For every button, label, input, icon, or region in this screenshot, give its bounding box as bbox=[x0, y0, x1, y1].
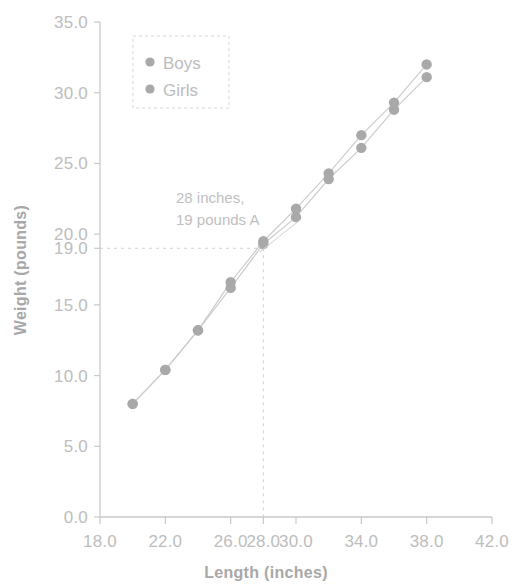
data-point-girls-4 bbox=[258, 236, 268, 246]
data-point-girls-1 bbox=[160, 365, 170, 375]
y-tick-label-30.0: 30.0 bbox=[54, 84, 88, 103]
series-markers bbox=[127, 59, 431, 409]
data-point-girls-9 bbox=[421, 59, 431, 69]
x-tick-label-18.0: 18.0 bbox=[83, 532, 117, 551]
x-axis-ticks bbox=[100, 517, 492, 524]
x-axis-title: Length (inches) bbox=[204, 564, 328, 581]
data-point-girls-7 bbox=[356, 130, 366, 140]
y-tick-label-25.0: 25.0 bbox=[54, 154, 88, 173]
x-tick-label-30.0: 30.0 bbox=[279, 532, 313, 551]
y-tick-label-35.0: 35.0 bbox=[54, 13, 88, 32]
chart-canvas: 0.05.010.015.019.020.025.030.035.0 18.02… bbox=[0, 0, 532, 586]
x-tick-label-42.0: 42.0 bbox=[475, 532, 509, 551]
series-lines bbox=[133, 64, 427, 403]
reference-lines bbox=[100, 248, 263, 517]
x-tick-label-26.0: 26.0 bbox=[214, 532, 248, 551]
data-point-girls-0 bbox=[127, 399, 137, 409]
data-point-boys-7 bbox=[356, 143, 366, 153]
x-tick-label-28.0: 28.0 bbox=[246, 532, 280, 551]
y-tick-label-20.0: 20.0 bbox=[54, 225, 88, 244]
chart-figure: 0.05.010.015.019.020.025.030.035.0 18.02… bbox=[0, 0, 532, 586]
legend-label-girls[interactable]: Girls bbox=[163, 81, 198, 100]
x-axis-tick-labels: 18.022.026.028.030.034.038.042.0 bbox=[83, 532, 509, 551]
data-point-girls-8 bbox=[389, 97, 399, 107]
y-tick-label-10.0: 10.0 bbox=[54, 367, 88, 386]
x-tick-label-34.0: 34.0 bbox=[344, 532, 378, 551]
y-tick-label-0.0: 0.0 bbox=[64, 508, 88, 527]
legend-label-boys[interactable]: Boys bbox=[163, 54, 201, 73]
data-point-girls-3 bbox=[225, 277, 235, 287]
annotation-line-1: 28 inches, bbox=[176, 189, 244, 206]
x-tick-label-38.0: 38.0 bbox=[410, 532, 444, 551]
series-line-boys bbox=[133, 77, 427, 404]
x-tick-label-22.0: 22.0 bbox=[148, 532, 182, 551]
data-point-girls-5 bbox=[291, 203, 301, 213]
data-point-girls-2 bbox=[193, 325, 203, 335]
legend: Boys Girls bbox=[133, 36, 229, 108]
series-line-girls bbox=[133, 64, 427, 403]
legend-marker-boys-icon bbox=[145, 57, 154, 66]
y-axis-ticks bbox=[94, 22, 100, 517]
annotation-line-2: 19 pounds A bbox=[176, 211, 259, 228]
data-point-girls-6 bbox=[323, 168, 333, 178]
annotation-callout: 28 inches, 19 pounds A bbox=[176, 189, 300, 252]
y-axis-title: Weight (pounds) bbox=[12, 205, 29, 335]
y-axis-tick-labels: 0.05.010.015.019.020.025.030.035.0 bbox=[54, 13, 88, 527]
y-tick-label-15.0: 15.0 bbox=[54, 296, 88, 315]
legend-marker-girls-icon bbox=[145, 84, 154, 93]
y-tick-label-5.0: 5.0 bbox=[64, 437, 88, 456]
data-point-boys-9 bbox=[421, 72, 431, 82]
axis-spines bbox=[100, 22, 492, 517]
